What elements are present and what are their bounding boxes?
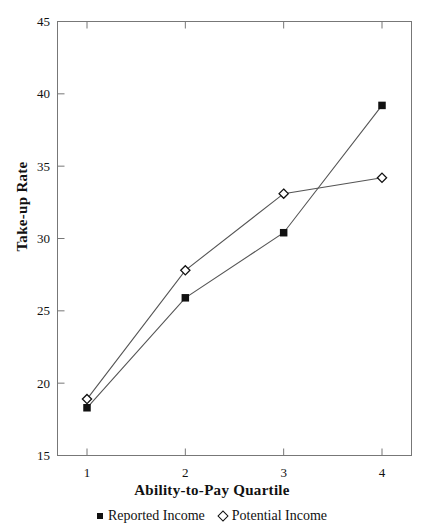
filled-square-icon [97,513,103,519]
open-diamond-icon [217,510,228,521]
x-axis-title: Ability-to-Pay Quartile [0,482,424,499]
legend-label: Reported Income [108,509,205,523]
x-tick-label: 2 [173,466,197,479]
chart-legend: Reported Income Potential Income [0,509,424,523]
x-tick-label-group: 1234 [0,0,424,531]
x-tick-label: 3 [272,466,296,479]
legend-item-potential-income: Potential Income [219,509,327,523]
legend-label: Potential Income [232,509,327,523]
y-axis-title: Take-up Rate [14,127,31,287]
x-tick-label: 1 [75,466,99,479]
legend-item-reported-income: Reported Income [97,509,205,523]
chart-figure: 15202530354045 1234 Take-up Rate Ability… [0,0,424,531]
x-tick-label: 4 [370,466,394,479]
